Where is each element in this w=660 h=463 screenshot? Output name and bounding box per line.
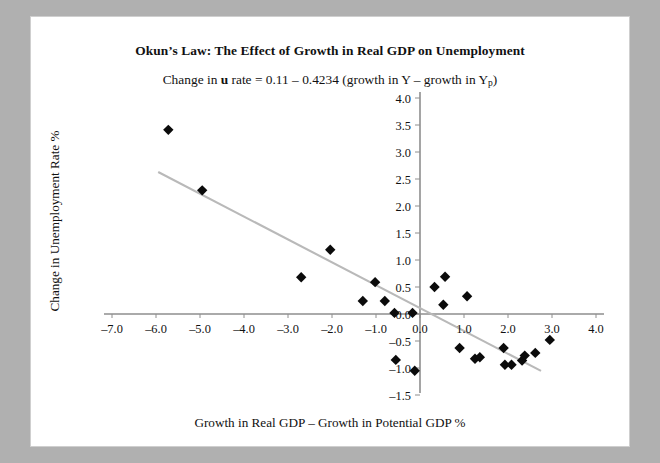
y-tick-label: 2.5: [396, 173, 412, 187]
y-tick-label: –1.5: [388, 389, 411, 403]
x-tick-label: 0.0: [412, 322, 428, 336]
x-tick-label: 4.0: [588, 322, 604, 336]
screenshot-root: Okun’s Law: The Effect of Growth in Real…: [0, 0, 660, 463]
axes-layer: [104, 92, 604, 395]
y-tick-label: 2.0: [396, 200, 412, 214]
trendline: [158, 172, 541, 371]
data-point-marker: [380, 296, 390, 306]
data-point-marker: [498, 343, 508, 353]
x-tick-label: –5.0: [188, 322, 211, 336]
chart-card: Okun’s Law: The Effect of Growth in Real…: [31, 17, 629, 446]
data-point-marker: [410, 366, 420, 376]
data-point-marker: [462, 291, 472, 301]
data-point-marker: [506, 360, 516, 370]
plot-svg: –7.0–6.0–5.0–4.0–3.0–2.0–1.00.01.02.03.0…: [31, 17, 629, 446]
y-tick-label: 1.5: [396, 227, 412, 241]
data-point-marker: [440, 272, 450, 282]
x-tick-label: 2.0: [500, 322, 516, 336]
x-tick-label: –4.0: [232, 322, 255, 336]
trendline-layer: [158, 172, 541, 371]
y-tick-label: 1.0: [396, 254, 412, 268]
data-point-marker: [454, 343, 464, 353]
x-tick-label: –7.0: [100, 322, 123, 336]
x-tick-label: –6.0: [144, 322, 167, 336]
y-tick-label: 4.0: [396, 92, 412, 106]
y-tick-label: –1.0: [388, 362, 411, 376]
data-point-marker: [163, 125, 173, 135]
x-tick-label: –3.0: [276, 322, 299, 336]
x-tick-label: –2.0: [320, 322, 343, 336]
y-axis-label: Change in Unemployment Rate %: [47, 31, 63, 411]
y-tick-label: 3.0: [396, 146, 412, 160]
data-point-marker: [545, 335, 555, 345]
x-tick-label: 3.0: [544, 322, 560, 336]
y-tick-label: 0.0: [396, 308, 412, 322]
x-tick-label: 1.0: [456, 322, 472, 336]
data-points-layer: [163, 125, 555, 376]
y-tick-label: 0.5: [396, 281, 412, 295]
scatter-plot: –7.0–6.0–5.0–4.0–3.0–2.0–1.00.01.02.03.0…: [31, 17, 629, 446]
y-tick-label: 3.5: [396, 119, 412, 133]
data-point-marker: [438, 300, 448, 310]
y-tick-label: –0.5: [388, 335, 411, 349]
data-point-marker: [429, 282, 439, 292]
data-point-marker: [325, 245, 335, 255]
x-tick-label: –1.0: [364, 322, 387, 336]
x-axis-label: Growth in Real GDP – Growth in Potential…: [31, 415, 629, 431]
data-point-marker: [358, 296, 368, 306]
data-point-marker: [296, 272, 306, 282]
data-point-marker: [530, 348, 540, 358]
